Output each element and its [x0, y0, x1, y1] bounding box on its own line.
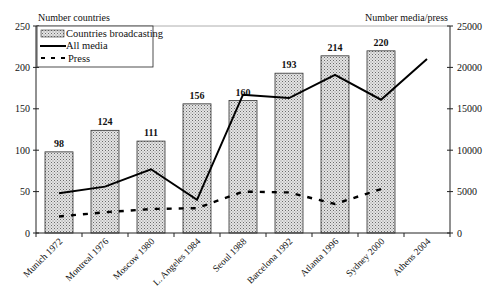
bar [137, 141, 165, 233]
category-label: Munich 1972 [21, 236, 64, 279]
category-label: Atlanta 1996 [298, 236, 340, 278]
left-tick-label: 100 [15, 145, 30, 156]
right-tick-label: 10000 [457, 145, 482, 156]
left-tick-label: 200 [15, 62, 30, 73]
legend-label-all-media: All media [66, 40, 108, 51]
bar-value-label: 214 [328, 42, 343, 53]
olympic-broadcast-chart: Number countries Number media/press 9812… [0, 0, 498, 302]
legend-label-countries: Countries broadcasting [66, 28, 164, 39]
bar-value-label: 193 [282, 59, 297, 70]
left-tick-label: 0 [25, 228, 30, 239]
left-tick-label: 150 [15, 103, 30, 114]
left-axis-title: Number countries [38, 12, 110, 23]
left-tick-label: 250 [15, 21, 30, 32]
category-label: Athens 2004 [391, 236, 432, 277]
right-tick-label: 0 [457, 228, 462, 239]
bar-value-label: 156 [190, 90, 205, 101]
category-label: Seoul 1988 [211, 236, 249, 274]
bar-value-label: 98 [54, 138, 64, 149]
category-label: Barcelona 1992 [245, 236, 295, 286]
left-tick-label: 50 [20, 186, 30, 197]
right-tick-label: 20000 [457, 62, 482, 73]
bar-value-label: 111 [144, 127, 158, 138]
legend-swatch-bars [41, 30, 64, 37]
bar-value-label: 220 [374, 37, 389, 48]
bar [183, 104, 211, 233]
legend: Countries broadcasting All media Press [37, 26, 164, 67]
category-label: Montreal 1976 [64, 236, 111, 283]
bar-value-label: 124 [98, 116, 113, 127]
bar [321, 56, 349, 233]
legend-label-press: Press [68, 53, 90, 64]
bar [229, 101, 257, 233]
bar [367, 51, 395, 233]
category-label: Moscow 1980 [111, 236, 156, 281]
right-axis-title: Number media/press [365, 12, 448, 23]
right-tick-label: 25000 [457, 21, 482, 32]
right-tick-label: 15000 [457, 103, 482, 114]
category-label: Sydney 2000 [344, 236, 387, 279]
category-label: L. Angeles 1984 [151, 236, 202, 287]
bar [91, 130, 119, 233]
right-tick-label: 5000 [457, 186, 477, 197]
